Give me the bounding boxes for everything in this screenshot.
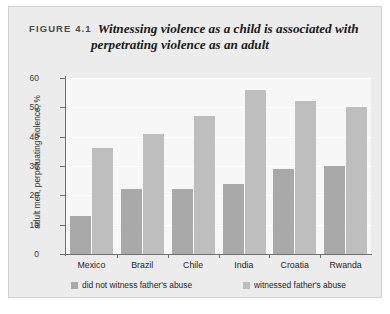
legend-label: witnessed father's abuse <box>254 280 346 290</box>
legend-label: did not witness father's abuse <box>82 280 192 290</box>
legend-entry-0[interactable]: did not witness father's abuse <box>71 280 192 290</box>
y-tick-mark <box>60 195 65 196</box>
legend-swatch-icon <box>71 282 78 289</box>
y-tick-label: 60 <box>0 73 39 83</box>
bar-rwanda-series-0 <box>324 166 345 254</box>
bar-mexico-series-1 <box>92 148 113 254</box>
y-tick-mark <box>60 137 65 138</box>
figure-panel: FIGURE 4.1 Witnessing violence as a chil… <box>8 6 382 298</box>
y-tick-label: 10 <box>0 220 39 230</box>
y-tick-label: 30 <box>0 161 39 171</box>
chart-legend: did not witness father's abusewitnessed … <box>71 280 371 294</box>
figure-title-text: Witnessing violence as a child is associ… <box>91 21 367 52</box>
y-tick-label: 50 <box>0 102 39 112</box>
y-tick-mark <box>60 78 65 79</box>
y-tick-mark <box>60 107 65 108</box>
bar-group <box>117 78 168 254</box>
bar-group <box>269 78 320 254</box>
bar-brazil-series-0 <box>121 189 142 254</box>
y-tick-label: 0 <box>0 249 39 259</box>
bar-brazil-series-1 <box>143 134 164 254</box>
bar-group <box>320 78 371 254</box>
plot-area <box>66 78 371 254</box>
legend-entry-1[interactable]: witnessed father's abuse <box>243 280 346 290</box>
x-tick-mark <box>168 254 169 258</box>
bar-rwanda-series-1 <box>346 107 367 254</box>
bar-croatia-series-1 <box>295 101 316 254</box>
y-tick-mark <box>60 225 65 226</box>
bar-chile-series-0 <box>172 189 193 254</box>
figure-number-label: FIGURE 4.1 <box>29 21 98 34</box>
bar-group <box>66 78 117 254</box>
y-tick-label: 20 <box>0 190 39 200</box>
bar-croatia-series-0 <box>273 169 294 254</box>
bar-chile-series-1 <box>194 116 215 254</box>
figure-title-block: FIGURE 4.1 Witnessing violence as a chil… <box>29 21 367 52</box>
x-tick-mark <box>219 254 220 258</box>
y-tick-mark <box>60 166 65 167</box>
bar-group <box>219 78 270 254</box>
x-tick-mark <box>269 254 270 258</box>
x-tick-mark <box>117 254 118 258</box>
legend-swatch-icon <box>243 282 250 289</box>
bar-group <box>168 78 219 254</box>
bar-india-series-1 <box>245 90 266 254</box>
x-tick-label-rwanda: Rwanda <box>314 260 378 270</box>
y-tick-mark <box>60 254 65 255</box>
bar-india-series-0 <box>223 184 244 254</box>
x-tick-mark <box>320 254 321 258</box>
y-tick-label: 40 <box>0 132 39 142</box>
bar-mexico-series-0 <box>70 216 91 254</box>
